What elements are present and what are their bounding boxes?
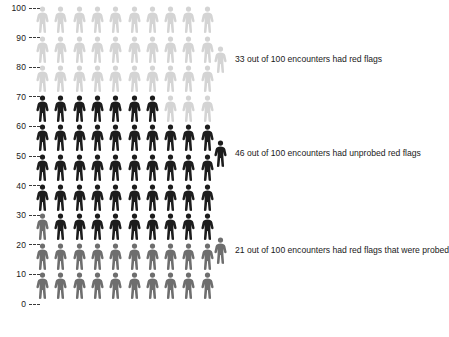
y-axis-tick-dash (29, 304, 40, 305)
person-icon (73, 124, 86, 151)
person-icon (201, 6, 214, 33)
person-icon (146, 124, 159, 151)
person-icon (164, 184, 177, 211)
person-icon (201, 213, 214, 240)
legend-label: 33 out of 100 encounters had red flags (235, 54, 382, 65)
person-icon (36, 6, 49, 33)
person-icon (128, 65, 141, 92)
person-icon (54, 65, 67, 92)
y-axis-tick-label: 10 (16, 269, 26, 279)
person-icon (54, 243, 67, 270)
person-icon (146, 272, 159, 299)
y-axis-tick-label: 80 (16, 62, 26, 72)
person-icon (146, 95, 159, 122)
y-axis-tick-label: 40 (16, 181, 26, 191)
person-icon (36, 95, 49, 122)
person-icon (128, 184, 141, 211)
person-icon (146, 213, 159, 240)
person-icon (146, 243, 159, 270)
y-axis-tick-0: 0 (21, 299, 40, 309)
person-icon (36, 154, 49, 181)
y-axis-tick-label: 60 (16, 121, 26, 131)
person-icon (54, 154, 67, 181)
person-icon (201, 154, 214, 181)
person-icon (109, 124, 122, 151)
person-icon (146, 154, 159, 181)
person-icon (73, 184, 86, 211)
person-icon (91, 36, 104, 63)
person-icon (54, 36, 67, 63)
person-icon (109, 272, 122, 299)
person-icon (73, 243, 86, 270)
person-icon (36, 243, 49, 270)
person-icon (164, 272, 177, 299)
y-axis-tick-label: 50 (16, 151, 26, 161)
person-icon (73, 154, 86, 181)
person-icon (54, 95, 67, 122)
person-icon (182, 36, 195, 63)
person-icon (182, 184, 195, 211)
person-icon (91, 184, 104, 211)
legend-item: 21 out of 100 encounters had red flags t… (214, 237, 449, 264)
person-icon (54, 124, 67, 151)
person-icon (36, 65, 49, 92)
person-icon (214, 140, 227, 167)
person-icon (182, 272, 195, 299)
person-icon (54, 6, 67, 33)
person-icon (73, 272, 86, 299)
person-icon (214, 46, 227, 73)
person-icon (128, 154, 141, 181)
person-icon (201, 184, 214, 211)
person-icon (201, 124, 214, 151)
person-icon (128, 243, 141, 270)
person-icon (128, 124, 141, 151)
person-icon (54, 184, 67, 211)
person-icon (73, 95, 86, 122)
person-icon (164, 65, 177, 92)
person-icon (201, 272, 214, 299)
legend-label: 21 out of 100 encounters had red flags t… (235, 245, 449, 256)
y-axis-tick-label: 20 (16, 240, 26, 250)
person-icon (91, 65, 104, 92)
person-icon (73, 213, 86, 240)
person-icon (91, 6, 104, 33)
person-icon (201, 243, 214, 270)
person-icon (128, 213, 141, 240)
person-icon (164, 95, 177, 122)
person-icon (128, 272, 141, 299)
person-icon (164, 243, 177, 270)
person-icon (36, 272, 49, 299)
person-icon (73, 65, 86, 92)
person-icon (214, 237, 227, 264)
person-icon (182, 213, 195, 240)
person-icon (109, 184, 122, 211)
legend-label: 46 out of 100 encounters had unprobed re… (235, 148, 421, 159)
person-icon (182, 124, 195, 151)
y-axis-tick-label: 100 (12, 3, 26, 13)
person-icon (109, 65, 122, 92)
legend-item: 46 out of 100 encounters had unprobed re… (214, 140, 421, 167)
person-icon (73, 36, 86, 63)
person-icon (54, 272, 67, 299)
person-icon (146, 184, 159, 211)
y-axis-tick-label: 90 (16, 33, 26, 43)
person-icon (54, 213, 67, 240)
person-icon (91, 154, 104, 181)
person-icon (91, 213, 104, 240)
person-icon (201, 65, 214, 92)
person-icon (73, 6, 86, 33)
person-icon (182, 95, 195, 122)
person-icon (109, 154, 122, 181)
person-icon (182, 243, 195, 270)
y-axis: 1009080706050403020100 (0, 0, 40, 337)
person-icon (109, 6, 122, 33)
person-icon (182, 6, 195, 33)
person-icon (164, 213, 177, 240)
person-icon (164, 36, 177, 63)
person-icon (146, 36, 159, 63)
person-icon (164, 124, 177, 151)
person-icon (91, 124, 104, 151)
person-icon (128, 95, 141, 122)
person-icon (201, 95, 214, 122)
person-icon (146, 65, 159, 92)
